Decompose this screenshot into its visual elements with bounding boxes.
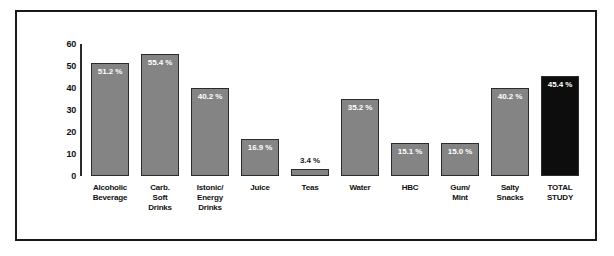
bar-category-label: SaltySnacks — [482, 183, 538, 203]
bar-category-label: Water — [332, 183, 388, 193]
bar-category-label-line: Istonic/ — [182, 183, 238, 193]
bar-rect[interactable] — [141, 54, 179, 176]
bar-value-label: 3.4 % — [289, 157, 331, 165]
bar-category-label-line: HBC — [382, 183, 438, 193]
bar-value-label: 40.2 % — [489, 93, 531, 101]
bar-value-label: 35.2 % — [339, 104, 381, 112]
bar-category-label-line: Soft — [132, 193, 188, 203]
bars-layer: 51.2 %AlcoholicBeverage55.4 %Carb.SoftDr… — [17, 12, 599, 243]
bar-value-label: 16.9 % — [239, 144, 281, 152]
bar-category-label: Juice — [232, 183, 288, 193]
bar-category-label-line: Beverage — [82, 193, 138, 203]
bar-category-label: Carb.SoftDrinks — [132, 183, 188, 213]
bar-category-label-line: Water — [332, 183, 388, 193]
plot-area: 6050403020100 51.2 %AlcoholicBeverage55.… — [17, 12, 599, 243]
bar-rect[interactable] — [291, 169, 329, 176]
bar-value-label: 55.4 % — [139, 59, 181, 67]
bar-category-label: Teas — [282, 183, 338, 193]
bar-value-label: 51.2 % — [89, 68, 131, 76]
chart-frame: 6050403020100 51.2 %AlcoholicBeverage55.… — [15, 10, 597, 241]
bar-category-label-line: Juice — [232, 183, 288, 193]
bar-category-label-line: Gum/ — [432, 183, 488, 193]
bar-category-label-line: Alcoholic — [82, 183, 138, 193]
bar-category-label-line: Mint — [432, 193, 488, 203]
bar-category-label: AlcoholicBeverage — [82, 183, 138, 203]
bar-category-label-line: Drinks — [182, 203, 238, 213]
bar-category-label-line: TOTAL — [532, 183, 588, 193]
bar-category-label: HBC — [382, 183, 438, 193]
bar-category-label: TOTALSTUDY — [532, 183, 588, 203]
bar-category-label-line: Snacks — [482, 193, 538, 203]
bar-category-label-line: Drinks — [132, 203, 188, 213]
bar-category-label-line: Energy — [182, 193, 238, 203]
bar-rect[interactable] — [191, 88, 229, 176]
bar-value-label: 45.4 % — [539, 81, 581, 89]
bar-category-label: Istonic/EnergyDrinks — [182, 183, 238, 213]
bar-category-label-line: Teas — [282, 183, 338, 193]
bar-rect[interactable] — [541, 76, 579, 176]
bar-rect[interactable] — [491, 88, 529, 176]
bar-value-label: 40.2 % — [189, 93, 231, 101]
bar-category-label-line: STUDY — [532, 193, 588, 203]
bar-category-label-line: Carb. — [132, 183, 188, 193]
bar-rect[interactable] — [91, 63, 129, 176]
bar-value-label: 15.0 % — [439, 148, 481, 156]
bar-category-label: Gum/Mint — [432, 183, 488, 203]
bar-value-label: 15.1 % — [389, 148, 431, 156]
bar-category-label-line: Salty — [482, 183, 538, 193]
